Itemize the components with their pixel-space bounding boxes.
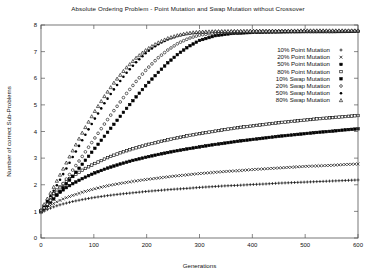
- data-point: [78, 160, 81, 163]
- data-point: [116, 105, 119, 108]
- y-tick-label: 2: [34, 182, 38, 188]
- data-point: [157, 41, 160, 44]
- data-point: [335, 130, 338, 133]
- data-point: [192, 31, 195, 34]
- data-point: [227, 141, 230, 144]
- data-point: [119, 115, 122, 118]
- chart-legend: 10% Point Mutation20% Point Mutation50% …: [276, 46, 343, 103]
- data-point: [331, 130, 334, 133]
- data-point: [312, 29, 315, 32]
- y-tick-label: 7: [34, 49, 38, 55]
- data-point: [233, 141, 236, 144]
- data-point: [274, 122, 277, 125]
- x-tick-label: 500: [300, 242, 311, 248]
- data-point: [59, 187, 62, 190]
- data-point: [223, 29, 226, 32]
- data-point: [182, 135, 185, 138]
- data-point: [328, 130, 331, 133]
- legend-label-4: 10% Swap Mutation: [276, 75, 330, 82]
- data-point: [100, 100, 103, 103]
- data-point: [141, 145, 144, 148]
- data-point: [293, 29, 296, 32]
- data-point: [186, 47, 189, 50]
- data-point: [68, 179, 71, 182]
- data-point: [230, 29, 233, 32]
- data-point: [71, 182, 74, 185]
- data-point: [132, 159, 135, 162]
- data-point: [144, 144, 147, 147]
- data-point: [214, 30, 217, 33]
- data-point: [350, 128, 353, 131]
- legend-marker-7: [339, 99, 342, 102]
- data-point: [344, 29, 347, 32]
- data-point: [220, 142, 223, 145]
- data-point: [176, 42, 179, 45]
- data-point: [106, 90, 109, 93]
- data-point: [287, 121, 290, 124]
- data-point: [278, 121, 281, 124]
- data-point: [147, 46, 150, 49]
- data-point: [147, 66, 150, 69]
- data-point: [122, 151, 125, 154]
- data-point: [201, 33, 204, 36]
- series-0: [40, 178, 360, 214]
- data-point: [77, 137, 80, 140]
- data-point: [154, 59, 157, 62]
- data-point: [157, 153, 160, 156]
- data-point: [226, 29, 229, 32]
- data-point: [93, 109, 96, 112]
- data-point: [214, 143, 217, 146]
- data-point: [94, 172, 97, 175]
- data-point: [195, 133, 198, 136]
- data-point: [354, 128, 357, 131]
- data-point: [141, 157, 144, 160]
- data-point: [122, 111, 125, 114]
- data-point: [325, 130, 328, 133]
- data-point: [100, 107, 103, 110]
- data-point: [201, 145, 204, 148]
- data-point: [106, 156, 109, 159]
- data-point: [109, 127, 112, 129]
- data-point: [113, 88, 116, 91]
- data-point: [96, 104, 99, 107]
- data-point: [186, 148, 189, 151]
- data-point: [334, 29, 337, 32]
- data-point: [315, 29, 318, 32]
- data-point: [325, 117, 328, 120]
- data-point: [309, 118, 312, 121]
- data-point: [185, 38, 188, 41]
- data-point: [100, 159, 103, 162]
- data-point: [300, 119, 303, 122]
- data-point: [84, 176, 87, 179]
- data-point: [296, 29, 299, 32]
- x-tick-label: 100: [89, 242, 100, 248]
- data-point: [100, 127, 103, 130]
- data-point: [341, 29, 344, 32]
- data-point: [255, 124, 258, 127]
- data-point: [220, 129, 223, 132]
- data-point: [122, 96, 125, 99]
- data-point: [271, 136, 274, 139]
- data-point: [176, 137, 179, 140]
- y-tick-label: 0: [34, 235, 38, 241]
- data-point: [84, 167, 87, 170]
- data-point: [94, 117, 97, 120]
- data-point: [81, 163, 84, 166]
- data-point: [338, 116, 341, 119]
- data-point: [347, 128, 350, 131]
- data-point: [284, 121, 287, 124]
- y-tick-label: 5: [34, 102, 38, 108]
- data-point: [94, 137, 97, 140]
- data-point: [211, 144, 214, 147]
- data-point: [122, 75, 125, 78]
- data-point: [217, 30, 220, 33]
- data-point: [338, 129, 341, 132]
- data-point: [119, 73, 122, 76]
- data-point: [103, 102, 106, 105]
- data-point: [109, 114, 112, 117]
- data-point: [350, 115, 353, 118]
- data-point: [211, 35, 214, 38]
- data-point: [268, 123, 271, 126]
- data-point: [119, 101, 122, 104]
- data-point: [144, 52, 147, 55]
